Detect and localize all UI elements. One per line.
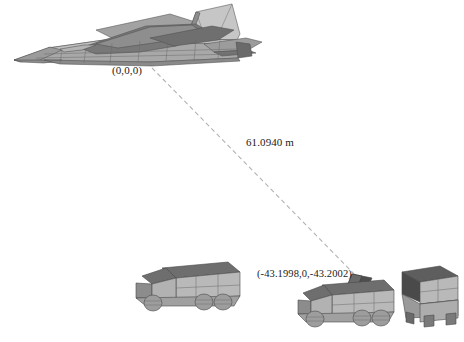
wheel xyxy=(353,310,371,326)
label-target-coordinate: (-43.1998,0,-43.2002) xyxy=(257,268,352,279)
shelter-truck-wheel-block-front xyxy=(424,315,434,327)
wheel xyxy=(144,295,162,311)
scene-canvas: (0,0,0) 61.0940 m (-43.1998,0,-43.2002) xyxy=(0,0,464,342)
radar-vehicle xyxy=(298,274,394,327)
shelter-truck-right xyxy=(402,266,458,327)
label-origin-coordinate: (0,0,0) xyxy=(112,64,142,76)
label-distance-measurement: 61.0940 m xyxy=(246,136,294,148)
shelter-truck-wheel-block-side xyxy=(406,312,414,324)
aircraft-exhaust xyxy=(236,42,252,58)
military-truck-left xyxy=(136,262,240,311)
wheel xyxy=(372,310,390,326)
radar-truck-cab-front xyxy=(298,300,311,314)
line-of-sight-group xyxy=(152,68,361,281)
wheel xyxy=(214,294,232,310)
delta-wing-fighter-aircraft xyxy=(14,4,262,66)
shelter-truck-wheel-block-rear xyxy=(446,313,456,325)
line-of-sight xyxy=(152,68,361,281)
wheel xyxy=(306,311,324,327)
wheel xyxy=(195,294,213,310)
scene-graphics xyxy=(0,0,464,342)
